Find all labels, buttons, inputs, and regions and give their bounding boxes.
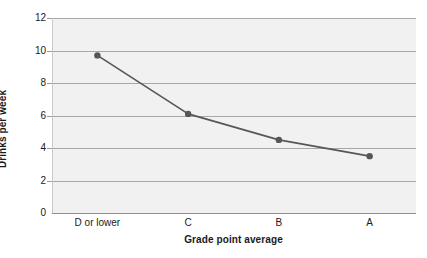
y-axis-tick-mark (47, 51, 52, 52)
gridline (53, 181, 416, 182)
y-axis-tick-mark (47, 83, 52, 84)
gridline (53, 18, 416, 19)
y-axis-tick-mark (47, 116, 52, 117)
x-axis-tick-label: D or lower (75, 217, 121, 228)
x-axis-line (52, 213, 416, 214)
y-axis-tick-label: 0 (24, 208, 46, 218)
x-axis-tick-label: C (185, 217, 192, 228)
y-axis-tick-mark (47, 148, 52, 149)
y-axis-tick-label: 10 (24, 46, 46, 56)
y-axis-tick-labels: 024681012 (22, 0, 46, 258)
y-axis-tick-mark (47, 181, 52, 182)
plot-area (52, 18, 416, 213)
gridline (53, 148, 416, 149)
y-axis-tick-label: 12 (24, 13, 46, 23)
y-axis-title: Drinks per week (0, 0, 22, 258)
y-axis-tick-label: 4 (24, 143, 46, 153)
y-axis-tick-mark (47, 18, 52, 19)
y-axis-tick-label: 8 (24, 78, 46, 88)
gridline (53, 116, 416, 117)
x-axis-title: Grade point average (52, 234, 415, 245)
y-axis-tick-label: 6 (24, 111, 46, 121)
y-axis-tick-label: 2 (24, 176, 46, 186)
line-chart: Drinks per week 024681012 D or lowerCBA … (0, 0, 427, 258)
gridline (53, 83, 416, 84)
gridline (53, 51, 416, 52)
x-axis-tick-label: A (366, 217, 373, 228)
x-axis-tick-label: B (276, 217, 283, 228)
